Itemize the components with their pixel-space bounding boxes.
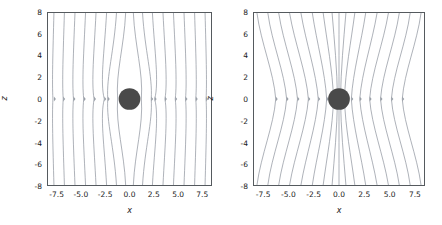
streamlines-left [48,13,211,185]
y-tick-label: -2 [224,117,248,126]
y-tick-label: 2 [18,73,42,82]
y-tick-label: -4 [18,138,42,147]
y-tick-label: 6 [18,29,42,38]
x-tick-label: 0.0 [124,190,136,199]
x-axis-label-left: x [47,206,212,215]
y-tick-label: 0 [224,95,248,104]
y-tick-label: -6 [18,160,42,169]
x-tick-label: -7.5 [49,190,64,199]
x-tick-label: -2.5 [98,190,113,199]
y-tick-label: -4 [224,138,248,147]
x-tick-label: -2.5 [306,190,321,199]
y-tick-label: 0 [18,95,42,104]
y-tick-label: -2 [18,117,42,126]
x-tick-label: 7.5 [196,190,208,199]
y-tick-label: -8 [18,182,42,191]
y-tick-label: 6 [224,29,248,38]
x-axis-label-right: x [253,206,425,215]
y-tick-label: -8 [224,182,248,191]
y-tick-label: 8 [18,8,42,17]
y-tick-label: 4 [224,51,248,60]
streamlines-right [254,13,424,185]
figure-container: z 8 6 4 2 0 -2 -4 -6 -8 -7.5 -5.0 -2.5 0… [0,0,442,225]
sphere-marker-left [119,88,141,110]
panel-right: z 8 6 4 2 0 -2 -4 -6 -8 -7.5 -5.0 -2.5 0… [221,0,442,225]
sphere-marker-right [328,88,350,110]
plot-area-right [253,12,425,186]
x-tick-label: 5.0 [384,190,396,199]
plot-area-left [47,12,212,186]
y-tick-label: -6 [224,160,248,169]
x-tick-label: 7.5 [409,190,421,199]
x-tick-label: 2.5 [358,190,370,199]
y-axis-label-right: z [206,96,215,100]
x-tick-label: 2.5 [148,190,160,199]
x-tick-label: 5.0 [172,190,184,199]
x-tick-label: -5.0 [74,190,89,199]
x-tick-label: -7.5 [256,190,271,199]
y-tick-label: 4 [18,51,42,60]
x-tick-label: 0.0 [333,190,345,199]
y-tick-label: 2 [224,73,248,82]
y-axis-label-left: z [0,96,9,100]
panel-left: z 8 6 4 2 0 -2 -4 -6 -8 -7.5 -5.0 -2.5 0… [0,0,221,225]
x-tick-label: -5.0 [281,190,296,199]
y-tick-label: 8 [224,8,248,17]
